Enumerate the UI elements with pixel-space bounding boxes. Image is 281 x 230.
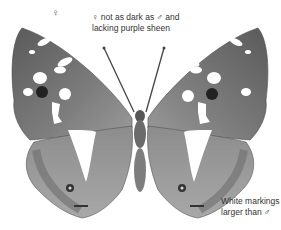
annotation-bottom-line-1: White markings: [221, 196, 280, 207]
annotation-top-line-2: lacking purple sheen: [92, 23, 179, 34]
annotation-top: ♀ not as dark as ♂ and lacking purple sh…: [92, 12, 179, 34]
cropped-caption: [6, 224, 281, 230]
annotation-top-line-1: ♀ not as dark as ♂ and: [92, 12, 179, 23]
female-symbol: ♀: [52, 7, 60, 18]
annotation-bottom-right: White markings larger than ♂: [221, 196, 280, 218]
annotation-bottom-line-2: larger than ♂: [221, 207, 280, 218]
